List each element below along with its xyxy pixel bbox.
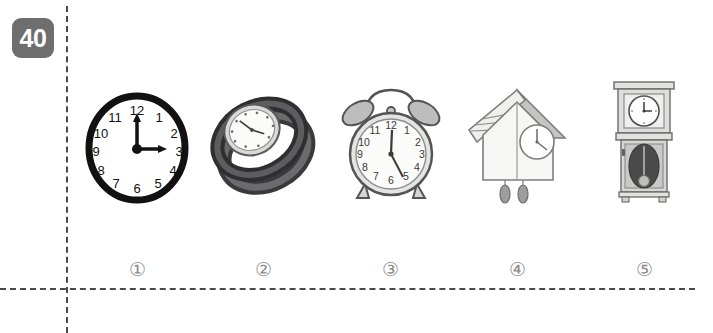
cuckoo-clock-icon (461, 80, 573, 204)
svg-text:2: 2 (415, 136, 421, 148)
option-2-wristwatch[interactable] (205, 74, 323, 204)
answer-marker-3[interactable]: ③ (332, 256, 450, 284)
svg-text:9: 9 (357, 148, 363, 160)
answer-marker-2[interactable]: ② (205, 256, 323, 284)
option-3-alarm-clock[interactable]: 12 1 2 3 4 5 6 7 8 9 10 11 (332, 74, 450, 204)
svg-text:8: 8 (362, 161, 368, 173)
svg-text:11: 11 (369, 124, 380, 136)
answer-marker-5[interactable]: ⑤ (585, 256, 703, 284)
svg-text:11: 11 (108, 110, 122, 125)
svg-text:7: 7 (112, 176, 119, 191)
svg-text:5: 5 (403, 170, 409, 182)
option-4-cuckoo-clock[interactable] (458, 74, 576, 204)
svg-text:6: 6 (388, 174, 394, 186)
question-card: 40 12 1 2 3 4 5 6 7 8 9 10 (0, 0, 713, 333)
question-number-badge: 40 (12, 18, 54, 58)
answer-options-row: 12 1 2 3 4 5 6 7 8 9 10 11 (78, 74, 703, 204)
grandfather-clock-icon (594, 76, 694, 204)
svg-text:10: 10 (94, 126, 108, 141)
svg-text:3: 3 (175, 144, 182, 159)
option-1-wall-clock[interactable]: 12 1 2 3 4 5 6 7 8 9 10 11 (78, 74, 196, 204)
svg-text:8: 8 (97, 163, 104, 178)
svg-text:12: 12 (385, 119, 397, 131)
answer-marker-1[interactable]: ① (78, 256, 196, 284)
vertical-dashed-divider (66, 6, 68, 333)
alarm-clock-icon: 12 1 2 3 4 5 6 7 8 9 10 11 (335, 80, 447, 204)
svg-text:3: 3 (419, 148, 425, 160)
svg-text:9: 9 (92, 144, 99, 159)
svg-text:4: 4 (169, 163, 176, 178)
svg-text:4: 4 (414, 161, 420, 173)
svg-text:1: 1 (155, 110, 162, 125)
svg-text:2: 2 (170, 126, 177, 141)
svg-text:1: 1 (404, 124, 410, 136)
answer-marker-4[interactable]: ④ (458, 256, 576, 284)
horizontal-dashed-divider (0, 288, 695, 290)
svg-text:10: 10 (358, 136, 370, 148)
svg-text:5: 5 (154, 176, 161, 191)
svg-text:7: 7 (373, 170, 379, 182)
option-5-grandfather-clock[interactable] (585, 74, 703, 204)
svg-text:6: 6 (133, 181, 140, 196)
answer-markers-row: ① ② ③ ④ ⑤ (78, 256, 703, 284)
wristwatch-icon (206, 86, 322, 204)
wall-clock-icon: 12 1 2 3 4 5 6 7 8 9 10 11 (81, 86, 193, 204)
